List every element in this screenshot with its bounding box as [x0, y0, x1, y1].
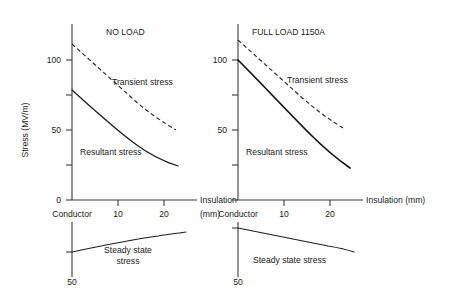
left-steady-state-label-line2: stress: [117, 256, 140, 266]
right-panel-title: FULL LOAD 1150A: [252, 27, 325, 37]
stress-vs-insulation-figure: 100 50 0 Stress (MV/m) 10 20 Conductor I…: [0, 0, 451, 294]
right-lower-tick-label: 50: [233, 277, 243, 287]
right-conductor-label: Conductor: [218, 209, 258, 219]
right-ytick-label-100: 100: [213, 55, 228, 65]
right-ytick-label-50: 50: [217, 125, 227, 135]
left-conductor-label: Conductor: [52, 209, 92, 219]
left-y-axis-label: Stress (MV/m): [20, 102, 30, 157]
left-xtick-label-10: 10: [113, 209, 123, 219]
left-panel-title: NO LOAD: [106, 27, 145, 37]
left-lower-tick-label: 50: [67, 277, 77, 287]
right-steady-state-curve: [238, 228, 354, 252]
right-steady-state-label: Steady state stress: [253, 255, 326, 265]
left-steady-state-label-line1: Steady state: [104, 245, 152, 255]
left-transient-stress-label: Transient stress: [112, 77, 173, 87]
right-xtick-label-20: 20: [325, 209, 335, 219]
right-transient-stress-label: Transient stress: [287, 75, 348, 85]
left-xtick-label-20: 20: [159, 209, 169, 219]
left-resultant-stress-label: Resultant stress: [80, 147, 142, 157]
left-x-axis-label-line2: (mm): [200, 209, 220, 219]
right-resultant-stress-label: Resultant stress: [246, 147, 308, 157]
left-ytick-label-50: 50: [51, 125, 61, 135]
figure-canvas: 100 50 0 Stress (MV/m) 10 20 Conductor I…: [0, 0, 451, 294]
left-ytick-label-100: 100: [47, 55, 62, 65]
right-xtick-label-10: 10: [279, 209, 289, 219]
panel-no-load: 100 50 0 Stress (MV/m) 10 20 Conductor I…: [20, 24, 237, 287]
left-x-axis-label-line1: Insulation: [200, 195, 237, 205]
panel-full-load: 100 50 10 20 Conductor Insulation (mm) F…: [213, 24, 426, 287]
right-x-axis-label: Insulation (mm): [366, 195, 425, 205]
left-transient-stress-curve: [72, 44, 176, 130]
left-ytick-label-0: 0: [56, 195, 61, 205]
